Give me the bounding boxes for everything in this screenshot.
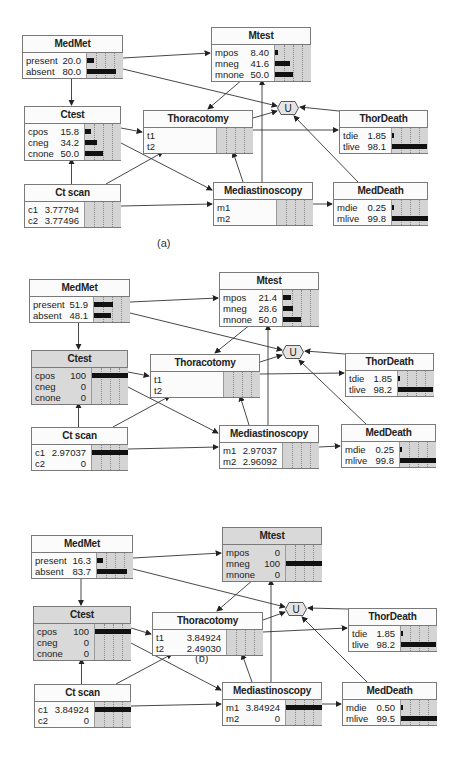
node-ctest[interactable]: Ctestcpos100cneg0cnone0 — [31, 350, 128, 405]
state-row: mneg41.6 — [212, 58, 310, 69]
utility-label: U — [284, 103, 291, 114]
belief-bar — [97, 558, 103, 563]
edge-medmet-mtest — [133, 553, 221, 558]
node-title: MedMet — [23, 36, 122, 53]
state-label: c1 — [35, 447, 45, 458]
state-label: mpos — [223, 292, 246, 303]
node-title: Thoracotomy — [144, 111, 252, 128]
state-row: cnone0 — [32, 392, 127, 403]
state-label: mneg — [226, 558, 250, 569]
state-row: tlive98.1 — [340, 141, 427, 152]
state-label: tlive — [349, 384, 366, 395]
edge-thoracotomy-utility — [253, 111, 277, 118]
utility-node-hexagon[interactable]: U — [282, 345, 304, 359]
node-thoracotomy[interactable]: Thoracotomyt1t2 — [150, 354, 260, 398]
edge-mediastinoscopy-thoracotomy — [242, 654, 252, 682]
state-label: mlive — [345, 455, 367, 466]
state-label: c2 — [38, 715, 48, 726]
node-ctest[interactable]: Ctestcpos100cneg0cnone0 — [33, 606, 131, 661]
node-title: Thoracotomy — [153, 613, 262, 630]
state-value: 3.77496 — [45, 215, 79, 226]
state-label: mdie — [346, 702, 367, 713]
state-row: cnone0 — [34, 648, 130, 659]
utility-node-hexagon[interactable]: U — [277, 101, 299, 115]
node-ctscan[interactable]: Ct scanc13.77794c23.77496 — [24, 184, 121, 228]
state-value: 1.85 — [368, 130, 387, 141]
state-value: 34.2 — [61, 137, 80, 148]
state-row: cpos100 — [34, 626, 130, 637]
state-value: 100 — [70, 370, 86, 381]
node-mtest[interactable]: Mtestmpos0mneg100mnone0 — [222, 527, 322, 582]
belief-bar — [401, 705, 403, 710]
node-title: MedMet — [30, 280, 129, 297]
node-medmet[interactable]: MedMetpresent20.0absent80.0 — [22, 35, 123, 79]
node-ctscan[interactable]: Ct scanc12.97037c20 — [31, 427, 128, 471]
node-states: cpos15.8cneg34.2cnone50.0 — [25, 124, 120, 160]
node-ctest[interactable]: Ctestcpos15.8cneg34.2cnone50.0 — [24, 106, 121, 161]
state-row: absent80.0 — [23, 66, 122, 77]
state-row: tlive98.2 — [346, 384, 433, 395]
node-title: ThorDeath — [349, 609, 436, 626]
belief-bar — [95, 629, 131, 634]
state-label: tlive — [352, 639, 369, 650]
state-value: 0.25 — [376, 444, 395, 455]
edge-mtest-thoracotomy — [208, 79, 243, 109]
node-mtest[interactable]: Mtestmpos21.4mneg28.6mnone50.0 — [219, 272, 319, 327]
state-row: mneg28.6 — [220, 303, 318, 314]
edge-thoracotomy-thordeath — [260, 373, 344, 374]
belief-bar — [85, 151, 103, 156]
state-label: cneg — [35, 381, 56, 392]
node-medmet[interactable]: MedMetpresent51.9absent48.1 — [29, 279, 130, 323]
state-row: cneg0 — [32, 381, 127, 392]
node-mediastinoscopy[interactable]: Mediastinoscopym12.97037m22.96092 — [219, 425, 319, 469]
belief-bar — [87, 69, 116, 74]
node-meddeath[interactable]: MedDeathmdie0.25mlive99.8 — [341, 424, 436, 468]
belief-bar — [92, 450, 128, 455]
node-thoracotomy[interactable]: Thoracotomyt13.84924t22.49030 — [152, 612, 263, 656]
state-label: present — [35, 555, 67, 566]
utility-node-hexagon[interactable]: U — [285, 602, 307, 616]
node-mediastinoscopy[interactable]: Mediastinoscopym1m2 — [213, 182, 313, 226]
state-row: tdie1.85 — [346, 373, 433, 384]
state-row: cneg0 — [34, 637, 130, 648]
state-label: t1 — [156, 632, 164, 643]
state-label: cpos — [35, 370, 55, 381]
edge-thoracotomy-utility — [263, 612, 285, 620]
state-label: mdie — [337, 202, 358, 213]
node-states: t13.84924t22.49030 — [153, 630, 262, 655]
node-meddeath[interactable]: MedDeathmdie0.50mlive99.5 — [342, 682, 437, 726]
edge-mediastinoscopy-thoracotomy — [233, 152, 243, 182]
node-ctscan[interactable]: Ct scanc13.84924c20 — [34, 684, 131, 728]
edge-ctest-thoracotomy — [128, 372, 149, 376]
state-row: mnone50.0 — [212, 69, 310, 80]
node-title: MedMet — [32, 536, 132, 553]
node-thordeath[interactable]: ThorDeathtdie1.85tlive98.2 — [348, 608, 437, 652]
belief-bar — [392, 144, 427, 149]
state-label: mnone — [223, 314, 252, 325]
state-label: t2 — [147, 141, 155, 152]
state-row: m20 — [223, 713, 321, 724]
node-states: tdie1.85tlive98.2 — [346, 371, 433, 396]
node-thordeath[interactable]: ThorDeathtdie1.85tlive98.2 — [345, 353, 434, 397]
node-mtest[interactable]: Mtestmpos8.40mneg41.6mnone50.0 — [211, 27, 311, 82]
diagram-panel-a: MedMetpresent20.0absent80.0Mtestmpos8.40… — [0, 0, 466, 255]
state-value: 0.50 — [377, 702, 396, 713]
state-label: m1 — [223, 445, 236, 456]
node-thoracotomy[interactable]: Thoracotomyt1t2 — [143, 110, 253, 154]
state-label: cnone — [28, 148, 54, 159]
state-label: t1 — [154, 374, 162, 385]
state-row: c20 — [32, 458, 127, 469]
state-row: t1 — [144, 130, 252, 141]
belief-bar — [94, 313, 111, 318]
node-mediastinoscopy[interactable]: Mediastinoscopym13.84924m20 — [222, 682, 322, 726]
belief-bar — [92, 373, 128, 378]
node-thordeath[interactable]: ThorDeathtdie1.85tlive98.1 — [339, 110, 428, 154]
node-meddeath[interactable]: MedDeathmdie0.25mlive99.8 — [333, 182, 428, 226]
state-label: m2 — [217, 213, 230, 224]
state-row: c20 — [35, 715, 130, 726]
state-row: mlive99.5 — [343, 713, 436, 724]
node-states: cpos100cneg0cnone0 — [34, 624, 130, 660]
node-medmet[interactable]: MedMetpresent16.3absent83.7 — [31, 535, 133, 579]
node-title: ThorDeath — [346, 354, 433, 371]
state-value: 51.9 — [70, 299, 89, 310]
